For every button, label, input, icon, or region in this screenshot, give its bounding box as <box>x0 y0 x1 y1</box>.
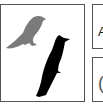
bird-image-panel <box>0 4 85 102</box>
option-box-b[interactable]: ( <box>92 57 103 102</box>
letter-glyph: A <box>98 25 103 38</box>
birds-illustration <box>1 5 86 103</box>
black-bird-icon <box>36 35 70 97</box>
option-box-a[interactable]: A <box>92 4 103 49</box>
paren-glyph: ( <box>98 74 103 92</box>
gray-bird-icon <box>6 16 46 48</box>
